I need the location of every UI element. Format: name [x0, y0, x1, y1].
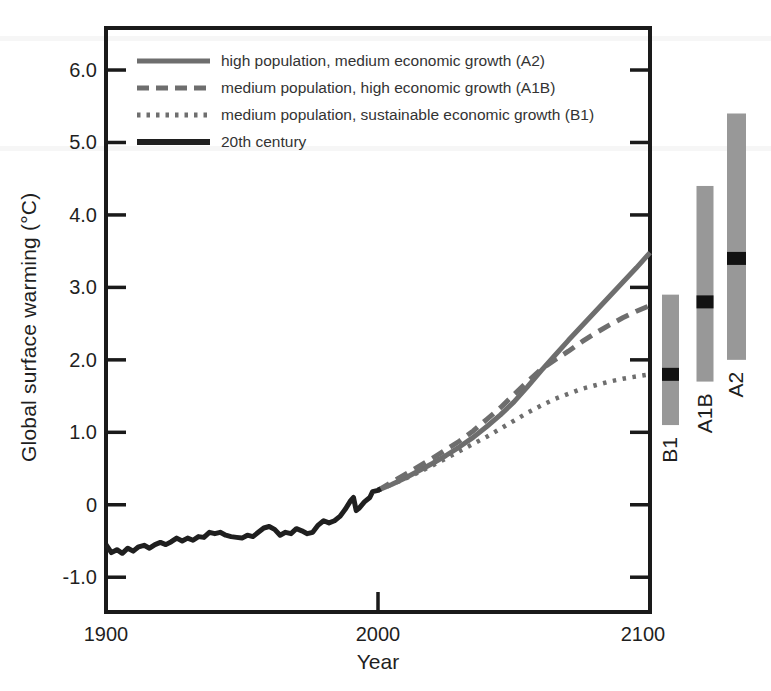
x-axis-title: Year — [357, 650, 399, 674]
scenario-range-bar-b1 — [662, 295, 679, 425]
y-tick-label: 4.0 — [69, 204, 97, 226]
y-tick-label: 3.0 — [69, 276, 97, 298]
series-line-20th-century — [106, 489, 381, 554]
legend-item-a2: high population, medium economic growth … — [137, 47, 594, 74]
climate-projection-figure: -1.001.02.03.04.05.06.0190020002100B1A1B… — [0, 0, 771, 691]
scenario-bar-label-a2: A2 — [725, 372, 748, 398]
legend-swatch-solid-black-line — [137, 137, 210, 147]
scenario-bar-label-b1: B1 — [659, 437, 682, 463]
legend-label-b1: medium population, sustainable economic … — [221, 106, 594, 124]
scenario-bar-label-a1b: A1B — [693, 394, 716, 434]
legend-label-a2: high population, medium economic growth … — [221, 52, 545, 70]
series-line-a2 — [378, 253, 650, 491]
legend-swatch-dashed-gray-line — [137, 83, 210, 93]
legend-item-20th-century: 20th century — [137, 128, 594, 155]
x-tick-label: 2000 — [356, 623, 401, 645]
legend-item-b1: medium population, sustainable economic … — [137, 101, 594, 128]
y-tick-label: 6.0 — [69, 59, 97, 81]
series-line-a1b — [378, 306, 650, 491]
y-tick-label: 1.0 — [69, 421, 97, 443]
scenario-best-estimate-a1b — [697, 295, 714, 308]
legend: high population, medium economic growth … — [137, 47, 594, 155]
legend-label-a1b: medium population, high economic growth … — [221, 79, 555, 97]
legend-swatch-dotted-gray-line — [137, 110, 210, 120]
x-tick-label: 1900 — [84, 623, 129, 645]
scenario-range-bar-a2 — [727, 113, 746, 359]
y-tick-label: 0 — [86, 494, 97, 516]
y-tick-label: 5.0 — [69, 131, 97, 153]
y-tick-label: -1.0 — [63, 566, 97, 588]
legend-swatch-solid-gray-line — [137, 56, 210, 66]
scenario-best-estimate-a2 — [727, 252, 746, 265]
legend-item-a1b: medium population, high economic growth … — [137, 74, 594, 101]
y-axis-title: Global surface warming (°C) — [17, 193, 41, 462]
y-tick-label: 2.0 — [69, 349, 97, 371]
scenario-range-bar-a1b — [697, 186, 714, 382]
legend-label-20th-century: 20th century — [221, 133, 306, 151]
scenario-best-estimate-b1 — [662, 368, 679, 381]
x-tick-label: 2100 — [621, 623, 666, 645]
